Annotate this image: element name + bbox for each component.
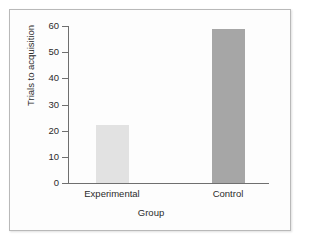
x-axis-line <box>68 183 269 184</box>
y-axis-title: Trials to acquisition <box>25 1 36 131</box>
x-axis-title: Group <box>10 207 292 218</box>
x-axis-tick-label: Control <box>213 188 244 199</box>
y-axis-tick: 20 <box>62 131 68 132</box>
y-axis-tick-label: 30 <box>48 98 59 111</box>
y-axis-tick: 10 <box>62 157 68 158</box>
chart-figure: 0102030405060 ExperimentalControl Group … <box>0 0 310 250</box>
figure-frame: 0102030405060 ExperimentalControl Group … <box>9 9 291 231</box>
bar-control <box>212 29 245 183</box>
y-axis-tick-label: 10 <box>48 150 59 163</box>
y-axis-tick-label: 0 <box>54 176 59 189</box>
y-axis-tick: 0 <box>62 183 68 184</box>
y-axis-tick-label: 60 <box>48 19 59 32</box>
y-axis-tick: 50 <box>62 52 68 53</box>
y-axis-tick-label: 50 <box>48 45 59 58</box>
plot-area: 0102030405060 ExperimentalControl Group … <box>10 10 292 232</box>
y-axis-tick: 60 <box>62 26 68 27</box>
y-axis-tick-label: 20 <box>48 124 59 137</box>
y-axis-tick: 30 <box>62 105 68 106</box>
x-axis-tick-label: Experimental <box>84 188 139 199</box>
y-axis-tick-label: 40 <box>48 71 59 84</box>
bar-experimental <box>96 125 129 183</box>
bar-series <box>69 26 269 183</box>
y-axis-tick: 40 <box>62 78 68 79</box>
